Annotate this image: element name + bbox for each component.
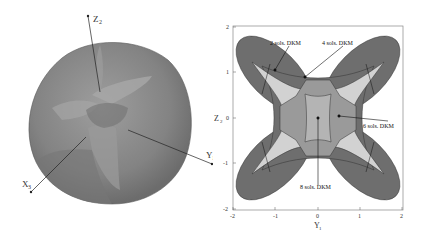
svg-text:-2: -2 [230, 213, 235, 219]
region-plot-figure: 2 sols. DKM 4 sols. DKM 6 sols. DKM 8 so… [213, 0, 426, 238]
label-8-sols: 8 sols. DKM [300, 184, 332, 190]
svg-text:2: 2 [400, 213, 403, 219]
label-4-sols: 4 sols. DKM [322, 40, 354, 46]
3d-surface-svg: Z 2 X 3 Y 1 [0, 0, 213, 238]
svg-text:-1: -1 [273, 213, 278, 219]
svg-text:0: 0 [316, 213, 319, 219]
y-axis-subscript: 2 [220, 119, 223, 124]
y-tick-labels: 2 1 0 -1 -2 [223, 24, 229, 212]
z-axis-subscript: 2 [99, 19, 102, 25]
svg-text:1: 1 [358, 213, 361, 219]
region-plot-svg: 2 sols. DKM 4 sols. DKM 6 sols. DKM 8 so… [213, 0, 426, 238]
y-axis-label: Z [214, 114, 219, 123]
x-axis-subscript: 3 [28, 184, 31, 190]
x-tick-labels: -2 -1 0 1 2 [230, 213, 403, 219]
label-6-sols: 6 sols. DKM [363, 123, 395, 129]
svg-text:-1: -1 [223, 160, 228, 166]
label-2-sols: 2 sols. DKM [270, 40, 302, 46]
svg-text:2: 2 [226, 24, 229, 30]
3d-surface-figure: Z 2 X 3 Y 1 [0, 0, 213, 238]
svg-text:-2: -2 [223, 206, 228, 212]
x-axis-subscript: 1 [319, 226, 322, 231]
z-axis-label: Z [93, 14, 99, 24]
svg-text:1: 1 [226, 69, 229, 75]
svg-text:0: 0 [226, 115, 229, 121]
